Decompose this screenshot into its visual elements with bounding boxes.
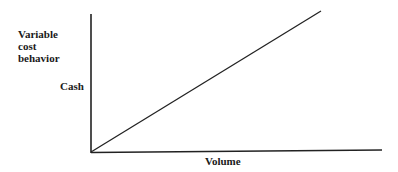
x-axis (91, 150, 382, 153)
diagram-canvas (0, 0, 398, 172)
variable-cost-line (91, 11, 321, 152)
